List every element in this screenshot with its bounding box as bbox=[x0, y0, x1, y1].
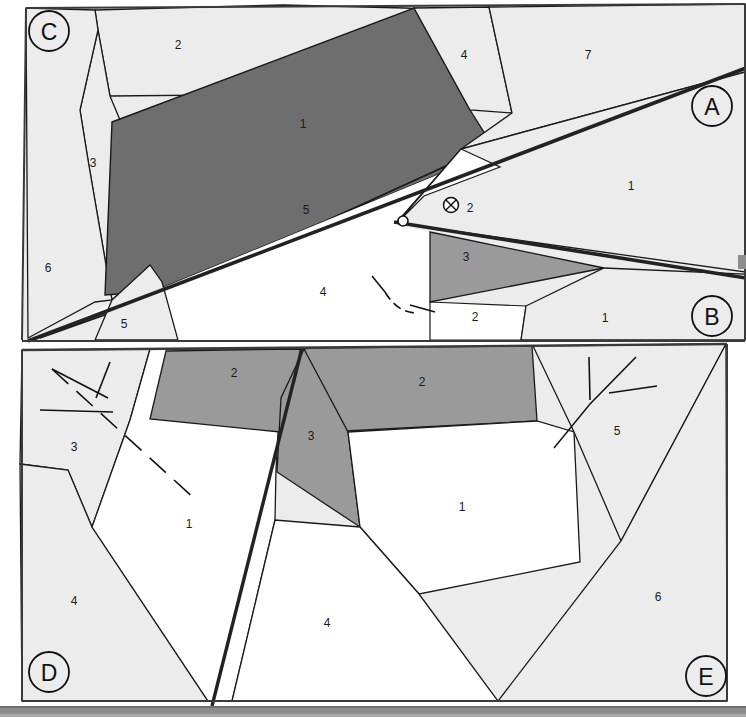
unit-label: 4 bbox=[320, 285, 327, 299]
small-circle-icon[interactable] bbox=[398, 216, 408, 226]
unit-label: 6 bbox=[655, 590, 662, 604]
unit-label: 1 bbox=[602, 311, 609, 325]
panel-letter-label: B bbox=[704, 304, 719, 330]
panel-letter-label: C bbox=[41, 19, 58, 45]
panel-letter-badge-c[interactable]: C bbox=[29, 11, 69, 51]
panel-letter-label: E bbox=[698, 664, 713, 690]
unit-label: 3 bbox=[463, 250, 470, 264]
unit-label: 2 bbox=[472, 310, 479, 324]
panel-letter-label: A bbox=[704, 94, 720, 120]
unit-label: 7 bbox=[585, 48, 592, 62]
geologic-map-figure: 2 3 6 5 1 4 7 5 1 2 3 4 2 1 3 4 1 2 3 2 … bbox=[0, 0, 746, 717]
unit-label: 4 bbox=[324, 616, 331, 630]
unit-label: 2 bbox=[419, 375, 426, 389]
unit-label: 5 bbox=[303, 203, 310, 217]
map-canvas: 2 3 6 5 1 4 7 5 1 2 3 4 2 1 3 4 1 2 3 2 … bbox=[0, 0, 746, 717]
unit-label: 3 bbox=[90, 156, 97, 170]
unit-label: 2 bbox=[231, 366, 238, 380]
unit-label: 6 bbox=[45, 261, 52, 275]
panel-letter-label: D bbox=[41, 660, 58, 686]
unit-label: 5 bbox=[614, 424, 621, 438]
unit-label: 1 bbox=[186, 517, 193, 531]
unit-label: 2 bbox=[175, 38, 182, 52]
panel-letter-badge-b[interactable]: B bbox=[692, 296, 732, 336]
unit-label: 5 bbox=[121, 317, 128, 331]
unit-label: 1 bbox=[300, 117, 307, 131]
unit-label: 3 bbox=[308, 429, 315, 443]
panel-letter-badge-e[interactable]: E bbox=[686, 656, 726, 696]
circle-x-icon[interactable] bbox=[444, 198, 459, 213]
unit-label: 1 bbox=[459, 500, 466, 514]
unit-label: 2 bbox=[467, 201, 474, 215]
unit-label: 4 bbox=[71, 594, 78, 608]
panel-letter-badge-d[interactable]: D bbox=[29, 652, 69, 692]
unit-label: 4 bbox=[461, 48, 468, 62]
panel-letter-badge-a[interactable]: A bbox=[692, 86, 732, 126]
lower-map-panel bbox=[20, 344, 727, 706]
unit-label: 3 bbox=[71, 440, 78, 454]
unit-label: 1 bbox=[628, 179, 635, 193]
upper-map-panel bbox=[22, 4, 746, 341]
